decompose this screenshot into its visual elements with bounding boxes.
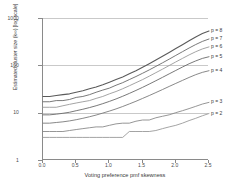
- legend-label-p6: p = 6: [211, 44, 222, 49]
- chart-figure: Estimated cluster size (k∞) [log scale] …: [0, 0, 232, 188]
- legend-label-p4: p = 4: [211, 68, 222, 73]
- series-line-p5: [43, 57, 209, 115]
- legend-label-p8: p = 8: [211, 28, 222, 33]
- series-line-p3: [43, 102, 209, 131]
- series-line-p4: [43, 71, 209, 123]
- series-line-p7: [43, 39, 209, 102]
- x-tick-label: 2.0: [165, 163, 185, 168]
- legend-label-p2: p = 2: [211, 111, 222, 116]
- x-axis-label: Voting preference pmf skewness: [42, 172, 208, 179]
- y-tick-label: 1000: [0, 16, 19, 21]
- series-line-p8: [43, 31, 209, 96]
- plot-area: [42, 18, 208, 160]
- x-tick-label: 1.0: [98, 163, 118, 168]
- legend-label-p7: p = 7: [211, 36, 222, 41]
- x-tick-label: 0.5: [65, 163, 85, 168]
- legend-label-p5: p = 5: [211, 54, 222, 59]
- x-tick-label: 0.0: [32, 163, 52, 168]
- data-series-layer: [43, 18, 208, 159]
- y-tick-label: 100: [0, 63, 19, 68]
- series-line-p2: [43, 114, 209, 138]
- series-line-p6: [43, 47, 209, 107]
- y-tick-label: 1: [0, 158, 19, 163]
- x-tick-label: 1.5: [132, 163, 152, 168]
- series-svg: [43, 18, 209, 160]
- legend-label-p3: p = 3: [211, 99, 222, 104]
- x-tick-label: 2.5: [198, 163, 218, 168]
- y-tick-label: 10: [0, 110, 19, 115]
